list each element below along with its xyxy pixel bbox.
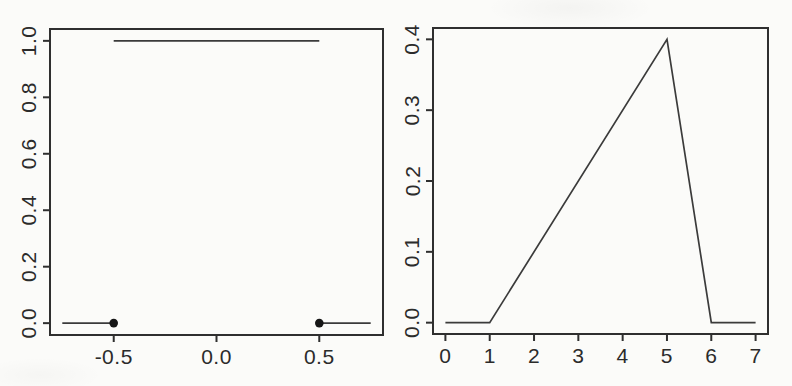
chart-svg: -0.50.00.50.00.20.40.60.81.0: [0, 0, 396, 386]
y-tick-label: 0.0: [18, 308, 41, 339]
y-tick-label: 0.3: [401, 95, 424, 126]
y-tick-label: 1.0: [18, 26, 41, 57]
y-tick-label: 0.4: [401, 24, 424, 55]
x-tick-label: 5: [661, 344, 673, 367]
two-panel-figure: -0.50.00.50.00.20.40.60.81.0 012345670.0…: [0, 0, 792, 386]
x-tick-label: 6: [705, 344, 717, 367]
x-tick-label: 1: [484, 344, 496, 367]
y-tick-label: 0.6: [18, 138, 41, 169]
plot-box: [50, 29, 383, 335]
x-tick-label: -0.5: [95, 345, 133, 368]
density-line: [445, 39, 755, 322]
data-point: [315, 319, 324, 328]
x-tick-label: 7: [749, 344, 761, 367]
x-tick-label: 3: [572, 344, 584, 367]
x-tick-label: 0.5: [304, 345, 335, 368]
y-tick-label: 0.0: [401, 307, 424, 338]
y-tick-label: 0.1: [401, 236, 424, 267]
plot-box: [433, 28, 768, 334]
chart-svg: 012345670.00.10.20.30.4: [396, 0, 792, 386]
right-plot-panel: 012345670.00.10.20.30.4: [396, 0, 792, 386]
data-point: [109, 319, 118, 328]
left-plot-panel: -0.50.00.50.00.20.40.60.81.0: [0, 0, 396, 386]
y-tick-label: 0.8: [18, 82, 41, 113]
y-tick-label: 0.2: [18, 251, 41, 282]
x-tick-label: 0: [439, 344, 451, 367]
x-tick-label: 0.0: [201, 345, 232, 368]
x-tick-label: 4: [617, 344, 629, 367]
y-tick-label: 0.2: [401, 166, 424, 197]
x-tick-label: 2: [528, 344, 540, 367]
y-tick-label: 0.4: [18, 195, 41, 226]
